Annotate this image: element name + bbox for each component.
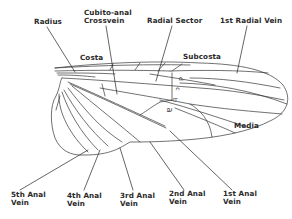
label-media: Media bbox=[234, 122, 259, 130]
leader-5th-anal bbox=[20, 150, 88, 190]
cell-letter-d-text: d bbox=[178, 77, 185, 81]
cell-letter-d: d bbox=[178, 77, 184, 81]
label-radial-sector: Radial Sector bbox=[147, 17, 202, 25]
label-cubito-anal-crossvein: Cubito-anal Crossvein bbox=[84, 9, 132, 25]
label-first-radial-vein: 1st Radial Vein bbox=[220, 17, 282, 25]
cell-letter-a: a bbox=[166, 108, 172, 113]
radius-vein bbox=[62, 78, 284, 100]
leader-radial-sector bbox=[156, 26, 172, 81]
label-first-anal-line2: Vein bbox=[223, 198, 257, 206]
wing-diagram: Radius Cubito-anal Crossvein Radial Sect… bbox=[0, 0, 292, 219]
first-radial-vein-line bbox=[170, 70, 268, 73]
wing-drawing bbox=[0, 0, 292, 219]
label-fifth-anal-vein: 5th Anal Vein bbox=[11, 191, 46, 207]
label-fourth-anal-vein: 4th Anal Vein bbox=[67, 192, 102, 208]
anal-vein-1 bbox=[72, 86, 140, 142]
leader-cubito-anal bbox=[106, 26, 117, 94]
label-media-text: Media bbox=[234, 121, 259, 130]
cell-letter-c-text: c bbox=[175, 87, 182, 90]
label-radius-text: Radius bbox=[34, 17, 62, 26]
subcosta-vein bbox=[55, 70, 170, 71]
leader-first-radial bbox=[237, 26, 247, 73]
leader-2nd-anal bbox=[150, 142, 184, 190]
leader-4th-anal bbox=[84, 150, 100, 190]
label-third-anal-line2: Vein bbox=[120, 200, 155, 208]
label-second-anal-line2: Vein bbox=[169, 198, 206, 206]
cell-letter-c: c bbox=[175, 87, 181, 90]
label-first-radial-vein-text: 1st Radial Vein bbox=[220, 16, 282, 25]
leader-1st-anal bbox=[170, 131, 232, 190]
label-subcosta-text: Subcosta bbox=[183, 52, 221, 61]
leader-radius bbox=[47, 27, 75, 72]
label-second-anal-vein: 2nd Anal Vein bbox=[169, 190, 206, 206]
cell-letter-b: b bbox=[172, 98, 178, 102]
anal-vein-2 bbox=[68, 88, 122, 142]
cubitus-vein bbox=[68, 82, 165, 126]
costa-vein bbox=[55, 65, 190, 68]
anal-vein-5 bbox=[59, 94, 88, 152]
label-costa: Costa bbox=[80, 54, 103, 62]
leader-3rd-anal bbox=[120, 148, 133, 190]
label-third-anal-vein: 3rd Anal Vein bbox=[120, 192, 155, 208]
label-radius: Radius bbox=[34, 18, 62, 26]
label-first-anal-vein: 1st Anal Vein bbox=[223, 190, 257, 206]
label-subcosta: Subcosta bbox=[183, 53, 221, 61]
label-radial-sector-text: Radial Sector bbox=[147, 16, 202, 25]
label-fourth-anal-line2: Vein bbox=[67, 200, 102, 208]
label-fifth-anal-line2: Vein bbox=[11, 199, 46, 207]
label-costa-text: Costa bbox=[80, 53, 103, 62]
cell-letter-a-text: a bbox=[165, 108, 174, 113]
label-cubito-anal-line2: Crossvein bbox=[84, 17, 132, 25]
cell-letter-b-text: b bbox=[172, 98, 179, 102]
anal-vein-4 bbox=[62, 92, 98, 150]
